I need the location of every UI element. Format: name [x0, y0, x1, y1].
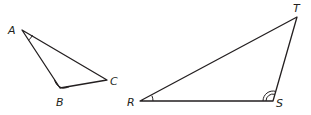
angle-r-arc [152, 96, 153, 101]
similar-triangles-diagram: A B C R S T [0, 0, 311, 115]
vertex-label-r: R [127, 96, 135, 109]
angle-a-arc [29, 35, 33, 40]
vertex-label-b: B [56, 96, 64, 109]
triangle-abc-outline [22, 30, 107, 88]
triangle-rst: R S T [127, 2, 301, 110]
triangle-abc: A B C [7, 24, 118, 109]
triangle-rst-outline [140, 17, 297, 101]
vertex-label-s: S [276, 97, 283, 110]
vertex-label-a: A [7, 24, 16, 37]
diagram-svg: A B C R S T [0, 0, 311, 115]
vertex-label-c: C [110, 75, 118, 88]
vertex-label-t: T [293, 2, 301, 15]
